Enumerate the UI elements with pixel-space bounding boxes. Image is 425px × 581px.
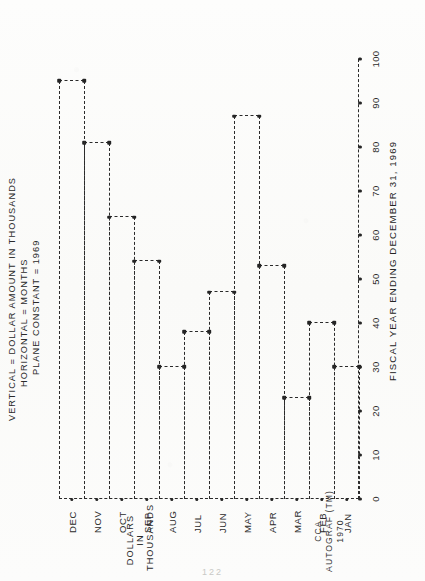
category-tick-label-apr: APR xyxy=(266,511,277,532)
page-number: 122 xyxy=(0,567,425,577)
bar-vertex-nov xyxy=(107,140,111,144)
category-tick-label-may: MAY xyxy=(241,511,252,533)
category-tick-label-aug: AUG xyxy=(166,510,177,532)
bar-vertex-oct xyxy=(132,215,136,219)
category-tick xyxy=(94,498,97,501)
plotter-credit-line-2: AUTOGRAF (TM) xyxy=(324,485,335,577)
bar-edge-end-jun xyxy=(209,291,234,292)
bar-edge-bottom-jul xyxy=(209,331,210,498)
category-tick xyxy=(219,498,222,501)
category-tick xyxy=(144,498,147,501)
plotter-credit-line-3: 1970 xyxy=(335,485,346,577)
value-tick-label: 40 xyxy=(370,317,381,328)
value-tick xyxy=(358,233,361,236)
bar-edge-end-dec xyxy=(59,80,84,81)
value-tick xyxy=(358,277,361,280)
bar-vertex-jul xyxy=(207,330,211,334)
value-tick xyxy=(358,321,361,324)
category-tick-label-dec: DEC xyxy=(66,511,77,533)
category-tick-label-mar: MAR xyxy=(291,510,302,533)
bar-edge-bottom-aug xyxy=(184,367,185,499)
bar-vertex-feb xyxy=(332,321,336,325)
bar-vertex-sep xyxy=(157,259,161,263)
bar-edge-bottom-may xyxy=(259,116,260,499)
value-tick-label: 100 xyxy=(370,50,381,67)
value-tick xyxy=(358,101,361,104)
category-tick-label-jun: JUN xyxy=(216,512,227,532)
bar-edge-bottom-dec xyxy=(84,81,85,499)
category-tick xyxy=(169,498,172,501)
bar-edge-end-oct xyxy=(109,216,134,217)
bar-edge-end-feb xyxy=(309,322,334,323)
bar-vertex-jun xyxy=(232,290,236,294)
bar-vertex-jan xyxy=(357,365,361,369)
bar-edge-bottom-sep xyxy=(159,261,160,499)
bar-vertex-dec xyxy=(82,79,86,83)
chart-subtitle-line-3: PLANE CONSTANT = 1969 xyxy=(31,239,41,374)
value-tick-label: 70 xyxy=(370,185,381,196)
value-tick xyxy=(358,145,361,148)
x-axis-title: FISCAL YEAR ENDING DECEMBER 31, 1969 xyxy=(387,140,398,380)
bar-edge-bottom-feb xyxy=(334,323,335,499)
bar-edge-bottom-jun xyxy=(234,292,235,499)
bar-vertex-jun xyxy=(207,290,211,294)
bar-edge-end-sep xyxy=(134,260,159,261)
chart-subtitle-line-1: VERTICAL = DOLLAR AMOUNT IN THOUSANDS xyxy=(7,176,17,420)
bar-edge-bottom-oct xyxy=(134,217,135,499)
category-tick xyxy=(294,498,297,501)
value-tick-label: 10 xyxy=(370,449,381,460)
category-tick xyxy=(244,498,247,501)
category-tick-label-oct: OCT xyxy=(116,511,127,533)
bar-edge-bottom-apr xyxy=(284,265,285,498)
bar-vertex-mar xyxy=(307,396,311,400)
plot-stage: ANNUAL REPORT TO STOCKHOLDERS FOR 1969 V… xyxy=(13,11,413,571)
bar-vertex-jul xyxy=(182,330,186,334)
value-tick-label: 0 xyxy=(370,496,381,502)
value-tick-label: 20 xyxy=(370,405,381,416)
category-tick xyxy=(119,498,122,501)
bar-vertex-apr xyxy=(282,264,286,268)
bar-edge-end-jan xyxy=(334,366,359,367)
bar-vertex-feb xyxy=(307,321,311,325)
category-tick-label-sep: SEP xyxy=(141,512,152,533)
plotter-credit: CCA AUTOGRAF (TM) 1970 xyxy=(313,485,346,577)
bar-edge-end-nov xyxy=(84,141,109,142)
bar-edge-end-may xyxy=(234,115,259,116)
bar-edge-end-aug xyxy=(159,366,184,367)
category-tick xyxy=(69,498,72,501)
bar-edge-end-jul xyxy=(184,330,209,331)
bar-edge-end-mar xyxy=(284,396,309,397)
bar-edge-end-apr xyxy=(259,264,284,265)
category-tick-label-nov: NOV xyxy=(91,510,102,532)
value-tick-label: 30 xyxy=(370,361,381,372)
bar-vertex-aug xyxy=(182,365,186,369)
value-tick-label: 50 xyxy=(370,273,381,284)
category-tick xyxy=(194,498,197,501)
bar-vertex-may xyxy=(232,114,236,118)
value-tick xyxy=(358,57,361,60)
chart-subtitle-line-2: HORIZONTAL = MONTHS xyxy=(19,258,29,386)
bar-edge-bottom-jan xyxy=(359,367,360,499)
value-tick-label: 90 xyxy=(370,97,381,108)
plotter-credit-line-1: CCA xyxy=(313,485,324,577)
bar-edge-bottom-nov xyxy=(109,142,110,498)
plot-area: 0102030405060708090100 JANFEBMARAPRMAYJU… xyxy=(59,59,359,499)
value-tick-label: 60 xyxy=(370,229,381,240)
value-tick xyxy=(358,189,361,192)
category-tick-label-jul: JUL xyxy=(191,514,202,533)
category-tick xyxy=(269,498,272,501)
bar-edge-bottom-mar xyxy=(309,397,310,498)
bar-edge-top-dec xyxy=(59,81,60,499)
value-tick-label: 80 xyxy=(370,141,381,152)
bar-vertex-dec xyxy=(57,79,61,83)
bar-vertex-may xyxy=(257,114,261,118)
